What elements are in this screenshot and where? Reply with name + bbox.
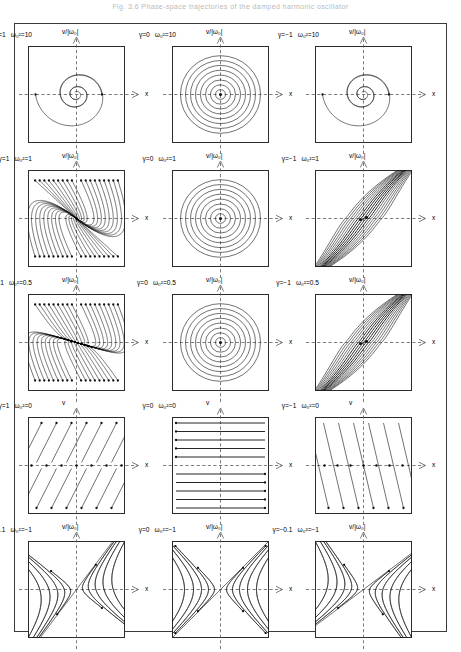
panel-parameter-label: γ=−0.1ω₀²=−1 <box>272 526 319 534</box>
panel-parameter-label: γ=1ω₀²=1 <box>0 155 32 163</box>
panel-omega-label: ω₀²=−1 <box>11 526 32 533</box>
panel-y-axis-label: v/|ω₀| <box>349 152 365 160</box>
panel-omega-label: ω₀²=10 <box>155 31 176 38</box>
panel-x-axis-label: x <box>289 90 292 98</box>
panel-trajectories <box>172 170 269 267</box>
panel-gamma-label: γ=0 <box>143 155 154 162</box>
panel-x-axis-label: x <box>432 338 435 346</box>
panel-x-axis-label: x <box>432 90 435 98</box>
panel-x-axis-label: x <box>145 585 148 593</box>
panel-parameter-label: γ=1ω₀²=10 <box>0 31 32 39</box>
panel-parameter-label: γ=−1ω₀²=1 <box>282 155 319 163</box>
panel-omega-label: ω₀²=−1 <box>298 526 319 533</box>
panel-trajectories <box>315 417 412 514</box>
panel-gamma-label: γ=0 <box>143 402 154 409</box>
panel-x-axis-label: x <box>289 461 292 469</box>
panel-omega-label: ω₀²=0 <box>158 402 176 409</box>
panel-gamma-label: γ=0 <box>139 526 150 533</box>
panel-gamma-label: γ=−0.1 <box>272 526 292 533</box>
panel-omega-label: ω₀²=0.5 <box>9 279 32 286</box>
panel-parameter-label: γ=0ω₀²=−1 <box>139 526 176 534</box>
panel-y-axis-label: v/|ω₀| <box>62 28 78 36</box>
panel-x-axis-label: x <box>432 461 435 469</box>
panel-trajectories <box>28 294 125 391</box>
panel-trajectories <box>315 46 412 143</box>
panel-parameter-label: γ=−1ω₀²=10 <box>278 31 319 39</box>
panel-trajectories <box>172 417 269 514</box>
panel-x-axis-label: x <box>145 90 148 98</box>
panel-trajectories <box>28 417 125 514</box>
panel-x-axis-label: x <box>145 461 148 469</box>
panel-parameter-label: γ=1ω₀²=0.5 <box>0 279 32 287</box>
panel-y-axis-label: v/|ω₀| <box>349 276 365 284</box>
panel-omega-label: ω₀²=1 <box>158 155 176 162</box>
panel-omega-label: ω₀²=−1 <box>155 526 176 533</box>
panel-trajectories <box>172 541 269 638</box>
panel-x-axis-label: x <box>289 338 292 346</box>
panel-x-axis-label: x <box>145 338 148 346</box>
panel-parameter-label: γ=1ω₀²=0 <box>0 402 32 410</box>
figure-caption: Fig. 3.6 Phase-space trajectories of the… <box>0 0 461 13</box>
panel-gamma-label: γ=1 <box>0 279 4 286</box>
panel-gamma-label: γ=0 <box>137 279 148 286</box>
panel-x-axis-label: x <box>289 214 292 222</box>
panel-parameter-label: γ=−1ω₀²=0.5 <box>276 279 319 287</box>
panel-y-axis-label: v/|ω₀| <box>62 152 78 160</box>
panel-y-axis-label: v/|ω₀| <box>206 523 222 531</box>
panel-trajectories <box>28 46 125 143</box>
panel-gamma-label: γ=0.1 <box>0 526 6 533</box>
panel-y-axis-label: v/|ω₀| <box>62 276 78 284</box>
panel-parameter-label: γ=−1ω₀²=0 <box>282 402 319 410</box>
panel-parameter-label: γ=0ω₀²=0.5 <box>137 279 176 287</box>
panel-gamma-label: γ=−1 <box>276 279 291 286</box>
panel-x-axis-label: x <box>145 214 148 222</box>
panel-y-axis-label: v <box>206 399 209 407</box>
panel-y-axis-label: v/|ω₀| <box>206 276 222 284</box>
panel-y-axis-label: v <box>62 399 65 407</box>
panel-y-axis-label: v/|ω₀| <box>206 28 222 36</box>
panel-y-axis-label: v <box>349 399 352 407</box>
panel-omega-label: ω₀²=0.5 <box>296 279 319 286</box>
panel-gamma-label: γ=−1 <box>282 402 297 409</box>
panel-omega-label: ω₀²=1 <box>301 155 319 162</box>
panel-gamma-label: γ=−1 <box>278 31 293 38</box>
panel-omega-label: ω₀²=0 <box>14 402 32 409</box>
panel-omega-label: ω₀²=1 <box>14 155 32 162</box>
panel-gamma-label: γ=1 <box>0 31 6 38</box>
panel-omega-label: ω₀²=10 <box>11 31 32 38</box>
panel-y-axis-label: v/|ω₀| <box>349 523 365 531</box>
panel-omega-label: ω₀²=10 <box>298 31 319 38</box>
panel-gamma-label: γ=0 <box>139 31 150 38</box>
panel-trajectories <box>172 294 269 391</box>
panel-gamma-label: γ=1 <box>0 402 9 409</box>
panel-parameter-label: γ=0ω₀²=1 <box>143 155 176 163</box>
panel-x-axis-label: x <box>432 214 435 222</box>
panel-gamma-label: γ=−1 <box>282 155 297 162</box>
panel-trajectories <box>315 170 412 267</box>
panel-trajectories <box>28 541 125 638</box>
panel-parameter-label: γ=0ω₀²=10 <box>139 31 176 39</box>
panel-x-axis-label: x <box>432 585 435 593</box>
panel-gamma-label: γ=1 <box>0 155 9 162</box>
panel-y-axis-label: v/|ω₀| <box>349 28 365 36</box>
panel-omega-label: ω₀²=0.5 <box>153 279 176 286</box>
panel-parameter-label: γ=0.1ω₀²=−1 <box>0 526 32 534</box>
panel-y-axis-label: v/|ω₀| <box>62 523 78 531</box>
figure-root: Fig. 3.6 Phase-space trajectories of the… <box>0 0 461 652</box>
panel-trajectories <box>172 46 269 143</box>
panel-y-axis-label: v/|ω₀| <box>206 152 222 160</box>
panel-trajectories <box>315 541 412 638</box>
panel-trajectories <box>315 294 412 391</box>
panel-x-axis-label: x <box>289 585 292 593</box>
panel-parameter-label: γ=0ω₀²=0 <box>143 402 176 410</box>
panel-trajectories <box>28 170 125 267</box>
panel-omega-label: ω₀²=0 <box>301 402 319 409</box>
